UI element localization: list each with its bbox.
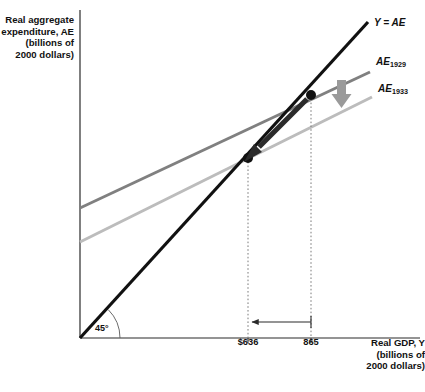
ae-shift-down-arrow xyxy=(332,80,352,108)
axes-group xyxy=(80,10,420,338)
curve-label-ae-1929-main: AE xyxy=(376,56,390,67)
curve-label-y-equals-ae: Y = AE xyxy=(374,17,405,28)
x-tick-label-865: 865 xyxy=(281,337,341,347)
ae-1929-line xyxy=(80,72,370,208)
forty-five-degree-label: 45° xyxy=(95,323,109,333)
curve-label-ae-1929: AE1929 xyxy=(376,56,406,67)
y-axis-label: Real aggregate expenditure, AE (billions… xyxy=(0,14,74,60)
y-equals-ae-line xyxy=(80,22,368,338)
gdp-decrease-arrow xyxy=(252,316,311,328)
equilibrium-dot-1929 xyxy=(306,90,316,100)
curve-label-ae-1933-sub: 1933 xyxy=(392,87,408,96)
curve-label-ae-1933: AE1933 xyxy=(378,83,408,94)
forty-five-degree-arc xyxy=(108,310,120,338)
equilibrium-move-arrow xyxy=(244,99,307,162)
x-axis-label: Real GDP, Y (billions of 2000 dollars) xyxy=(340,337,425,372)
ae-equilibrium-chart: Real aggregate expenditure, AE (billions… xyxy=(0,0,425,392)
curve-label-ae-1933-main: AE xyxy=(378,83,392,94)
curve-label-ae-1929-sub: 1929 xyxy=(390,60,406,69)
ae-1933-line xyxy=(80,97,372,242)
x-tick-label-636: $636 xyxy=(218,337,278,347)
